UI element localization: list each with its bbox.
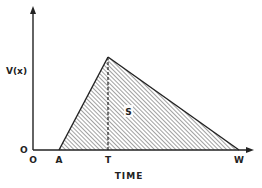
shaded-area-s (59, 57, 239, 150)
x-axis-arrow-icon (246, 147, 254, 153)
x-axis-label: TIME (115, 171, 144, 181)
y-origin-label: O (20, 145, 28, 155)
y-axis-label: V(x) (6, 66, 27, 76)
x-tick-a: A (56, 155, 63, 165)
diagram-canvas: V(x) O O A T W TIME S (0, 0, 262, 188)
x-tick-w: W (234, 155, 244, 165)
x-tick-o: O (29, 155, 37, 165)
y-axis-arrow-icon (30, 6, 36, 14)
area-label-s: S (125, 107, 131, 117)
x-tick-t: T (105, 155, 112, 165)
